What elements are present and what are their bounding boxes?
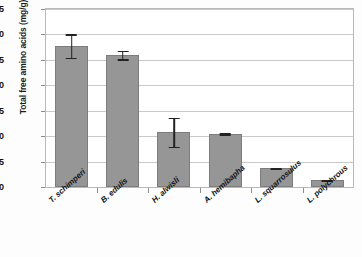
error-cap-top [117, 51, 128, 53]
y-tick-label: 35 [0, 4, 4, 14]
error-bar [71, 34, 73, 59]
error-bar [173, 118, 175, 149]
bar-chart: Total free amino acids (mg/g) 0510152025… [0, 0, 362, 257]
bar-slot [97, 9, 148, 187]
error-cap-bottom [220, 135, 231, 137]
y-tick-mark [41, 111, 45, 112]
error-cap-top [66, 34, 77, 36]
y-tick-mark [41, 34, 45, 35]
y-tick-mark [41, 60, 45, 61]
y-tick-label: 15 [0, 106, 4, 116]
y-axis-title: Total free amino acids (mg/g) [18, 0, 28, 142]
bar-series [46, 9, 353, 187]
y-tick-label: 0 [0, 182, 4, 192]
error-cap-bottom [168, 147, 179, 149]
y-tick-mark [41, 136, 45, 137]
y-tick-mark [41, 85, 45, 86]
y-tick-label: 30 [0, 29, 4, 39]
y-tick-label: 25 [0, 55, 4, 65]
bar-slot [46, 9, 97, 187]
bar-slot [148, 9, 199, 187]
y-tick-mark [41, 162, 45, 163]
y-tick-label: 5 [0, 157, 4, 167]
y-tick-label: 20 [0, 80, 4, 90]
error-cap-top [168, 118, 179, 120]
error-cap-bottom [117, 59, 128, 61]
bar-slot [302, 9, 353, 187]
y-tick-mark [41, 9, 45, 10]
error-bar [275, 168, 277, 171]
x-axis-labels: T. schimperiB. edulisH. alwisliA. hemiba… [45, 190, 354, 256]
error-cap-bottom [271, 169, 282, 171]
bar [106, 55, 139, 187]
plot-area [45, 8, 354, 188]
bar [55, 46, 88, 187]
bar-slot [200, 9, 251, 187]
y-tick-label: 10 [0, 131, 4, 141]
error-bar [122, 51, 124, 61]
y-tick-mark [41, 187, 45, 188]
error-bar [224, 133, 226, 136]
error-cap-bottom [66, 58, 77, 60]
